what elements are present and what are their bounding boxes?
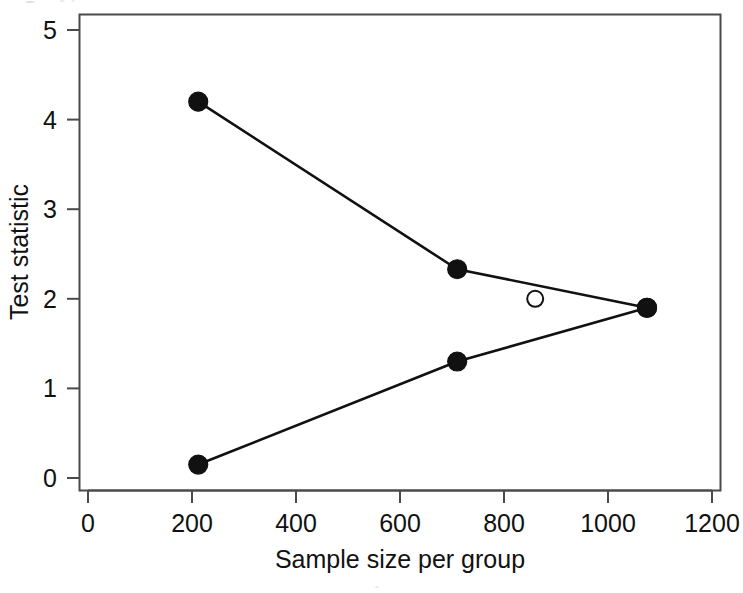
- plot-area: 012345 020040060080010001200 Sample size…: [0, 0, 743, 593]
- x-tick-label: 1000: [580, 509, 636, 537]
- series-lines: [198, 102, 647, 465]
- x-axis-ticks: [88, 490, 712, 503]
- x-tick-label: 800: [483, 509, 525, 537]
- data-point: [189, 92, 208, 111]
- x-tick-label: 1200: [684, 509, 740, 537]
- y-tick-label: 3: [43, 195, 57, 223]
- series-markers: [189, 92, 657, 474]
- y-tick-label: 0: [43, 464, 57, 492]
- data-point-open: [527, 291, 543, 307]
- y-tick-label: 2: [43, 285, 57, 313]
- plot-frame: [80, 15, 721, 491]
- chart-figure: 012345 020040060080010001200 Sample size…: [0, 0, 743, 593]
- y-tick-label: 1: [43, 374, 57, 402]
- x-tick-label: 0: [81, 509, 95, 537]
- x-tick-label: 600: [379, 509, 421, 537]
- y-axis-tick-labels: 012345: [43, 16, 57, 492]
- x-axis-tick-labels: 020040060080010001200: [81, 509, 740, 537]
- x-tick-label: 200: [171, 509, 213, 537]
- x-axis-title: Sample size per group: [275, 545, 525, 573]
- y-axis-title: Test statistic: [5, 184, 33, 320]
- data-point: [448, 352, 467, 371]
- y-tick-label: 5: [43, 16, 57, 44]
- data-point: [638, 298, 657, 317]
- data-point: [448, 260, 467, 279]
- series-line: [198, 102, 647, 308]
- data-point: [189, 455, 208, 474]
- y-tick-label: 4: [43, 106, 57, 134]
- series-line: [198, 308, 647, 465]
- x-tick-label: 400: [275, 509, 317, 537]
- y-axis-ticks: [67, 30, 79, 478]
